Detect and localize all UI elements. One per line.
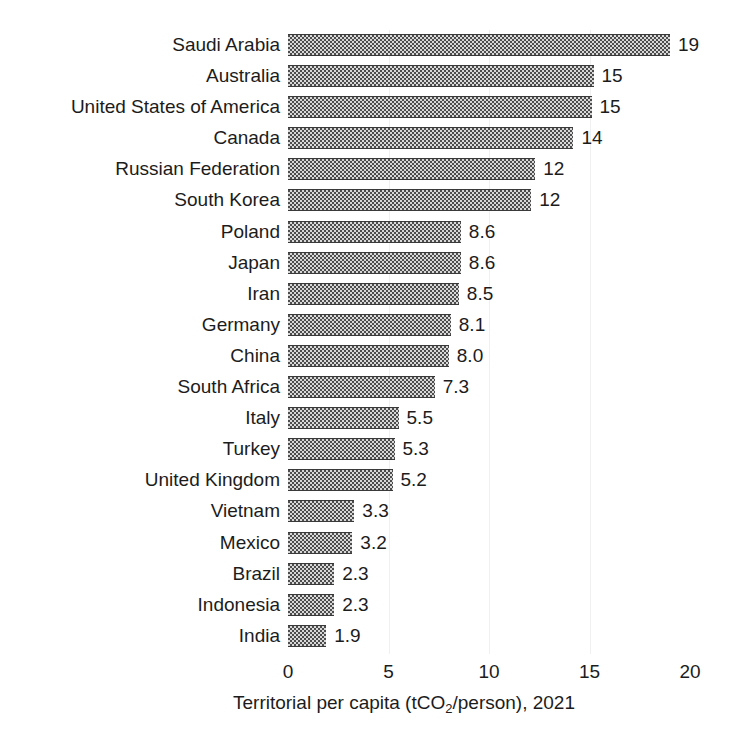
bar — [288, 65, 594, 87]
bar — [288, 96, 592, 118]
category-label: Mexico — [220, 532, 280, 554]
category-label: Saudi Arabia — [172, 34, 280, 56]
category-label: Australia — [206, 65, 280, 87]
bar-value-label: 7.3 — [443, 376, 469, 398]
category-label: Canada — [213, 127, 280, 149]
bar — [288, 314, 451, 336]
bar-value-label: 12 — [539, 189, 560, 211]
bar-value-label: 2.3 — [342, 563, 368, 585]
bar-value-label: 8.0 — [457, 345, 483, 367]
bar — [288, 438, 395, 460]
bar — [288, 469, 393, 491]
bar-row: Saudi Arabia19 — [288, 30, 690, 61]
bar-row: Germany8.1 — [288, 310, 690, 341]
category-label: Turkey — [223, 438, 280, 460]
x-axis-label-subscript: 2 — [445, 701, 452, 716]
bar-row: United Kingdom5.2 — [288, 465, 690, 496]
category-label: Russian Federation — [115, 158, 280, 180]
bar — [288, 252, 461, 274]
bar-row: Australia15 — [288, 61, 690, 92]
bar — [288, 189, 531, 211]
x-tick-label: 20 — [679, 660, 700, 684]
bar — [288, 376, 435, 398]
bar — [288, 127, 573, 149]
category-label: India — [239, 625, 280, 647]
bar — [288, 283, 459, 305]
bar-row: South Africa7.3 — [288, 372, 690, 403]
category-label: Italy — [245, 407, 280, 429]
category-label: United States of America — [71, 96, 280, 118]
x-tick-label: 10 — [478, 660, 499, 684]
bar-row: Turkey5.3 — [288, 434, 690, 465]
x-tick-label: 5 — [383, 660, 394, 684]
x-axis-ticks: 05101520 — [288, 660, 690, 686]
bar-row: Iran8.5 — [288, 279, 690, 310]
horizontal-bar-chart: Saudi Arabia19Australia15United States o… — [0, 0, 748, 752]
x-axis-label-after: /person), 2021 — [452, 692, 575, 713]
bar-value-label: 5.5 — [407, 407, 433, 429]
bar-value-label: 15 — [600, 96, 621, 118]
bar-row: United States of America15 — [288, 92, 690, 123]
bar — [288, 594, 334, 616]
bar-value-label: 12 — [543, 158, 564, 180]
bar-row: Poland8.6 — [288, 217, 690, 248]
x-tick-label: 0 — [283, 660, 294, 684]
bar-row: Japan8.6 — [288, 248, 690, 279]
bar-value-label: 8.5 — [467, 283, 493, 305]
bar-value-label: 8.1 — [459, 314, 485, 336]
bar-value-label: 2.3 — [342, 594, 368, 616]
bar — [288, 563, 334, 585]
bar-value-label: 3.3 — [362, 500, 388, 522]
bar-value-label: 8.6 — [469, 252, 495, 274]
category-label: South Korea — [174, 189, 280, 211]
bar-row: Canada14 — [288, 123, 690, 154]
category-label: Indonesia — [198, 594, 280, 616]
bar-row: India1.9 — [288, 621, 690, 652]
bar — [288, 34, 670, 56]
x-axis-label-before: Territorial per capita (tCO — [233, 692, 445, 713]
x-tick-label: 15 — [579, 660, 600, 684]
category-label: Japan — [228, 252, 280, 274]
bar-value-label: 8.6 — [469, 221, 495, 243]
x-axis-label: Territorial per capita (tCO2/person), 20… — [0, 692, 748, 714]
bar-row: South Korea12 — [288, 185, 690, 216]
bar-row: Vietnam3.3 — [288, 496, 690, 527]
bar-row: Mexico3.2 — [288, 528, 690, 559]
category-label: Brazil — [232, 563, 280, 585]
bar-value-label: 3.2 — [360, 532, 386, 554]
bar-row: Brazil2.3 — [288, 559, 690, 590]
bar-value-label: 5.3 — [403, 438, 429, 460]
bar — [288, 407, 399, 429]
bar-value-label: 1.9 — [334, 625, 360, 647]
bar-value-label: 5.2 — [401, 469, 427, 491]
bar — [288, 500, 354, 522]
category-label: Germany — [202, 314, 280, 336]
bar-row: Indonesia2.3 — [288, 590, 690, 621]
bar-row: China8.0 — [288, 341, 690, 372]
bar — [288, 221, 461, 243]
bar-value-label: 14 — [581, 127, 602, 149]
category-label: Poland — [221, 221, 280, 243]
bar — [288, 158, 535, 180]
category-label: China — [230, 345, 280, 367]
bar — [288, 532, 352, 554]
bar-rows: Saudi Arabia19Australia15United States o… — [288, 30, 690, 652]
plot-area: Saudi Arabia19Australia15United States o… — [288, 30, 690, 654]
bar — [288, 625, 326, 647]
bar-value-label: 15 — [602, 65, 623, 87]
category-label: South Africa — [178, 376, 280, 398]
category-label: Iran — [247, 283, 280, 305]
category-label: Vietnam — [211, 500, 280, 522]
category-label: United Kingdom — [145, 469, 280, 491]
bar-value-label: 19 — [678, 34, 699, 56]
bar — [288, 345, 449, 367]
bar-row: Russian Federation12 — [288, 154, 690, 185]
bar-row: Italy5.5 — [288, 403, 690, 434]
